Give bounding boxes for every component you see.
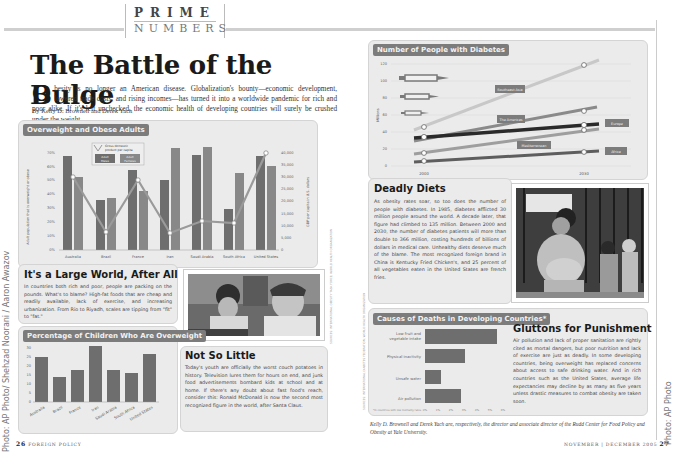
svg-text:France: France: [132, 255, 145, 259]
left-page-number: 26: [16, 440, 26, 447]
svg-text:France: France: [68, 404, 82, 415]
svg-text:20,000: 20,000: [281, 199, 294, 203]
diabetes-y-axis: 0204060 80100120: [380, 62, 388, 168]
svg-text:40,000: 40,000: [281, 151, 294, 155]
svg-text:100: 100: [380, 79, 388, 83]
svg-text:6%: 6%: [501, 408, 506, 412]
svg-text:25: 25: [26, 355, 31, 359]
large-world-body: In countries both rich and poor, people …: [24, 283, 172, 321]
y-axis-right: 05,00010,00015,000 20,00025,00030,00035,…: [281, 151, 294, 252]
svg-text:10: 10: [26, 382, 31, 386]
left-photo-credit: Photo: AP Photo/ Shehzad Noorani / Aaron…: [2, 251, 11, 452]
svg-text:Unsafe water: Unsafe water: [396, 376, 422, 381]
line-europe: [414, 124, 599, 138]
svg-text:The Americas: The Americas: [498, 118, 522, 122]
causes-chart: Low fruit andvegetable intake Physical i…: [369, 325, 529, 415]
deadly-diets-heading: Deadly Diets: [374, 183, 446, 194]
svg-text:Brazil: Brazil: [101, 255, 111, 259]
svg-text:Australia: Australia: [65, 255, 81, 259]
svg-text:3%: 3%: [462, 408, 467, 412]
svg-text:5,000: 5,000: [281, 236, 292, 240]
sources-note-left: SOURCES: INTERNATIONAL OBESITY TASK FORC…: [329, 229, 333, 344]
svg-text:vegetable intake: vegetable intake: [389, 336, 421, 341]
svg-text:Europe: Europe: [611, 122, 623, 126]
author-bio: Kelly D. Brownell and Derek Yach are, re…: [370, 420, 648, 436]
department-head: PRIME NUMBERS: [125, 4, 225, 38]
diabetes-x-axis: 20002030: [419, 171, 589, 176]
page-edge-line: [656, 20, 657, 440]
svg-text:50%: 50%: [47, 178, 56, 182]
svg-text:Africa: Africa: [611, 150, 621, 154]
causes-x-axis: 0%1%2%3% 4%5%6%: [423, 408, 506, 412]
svg-text:Australia: Australia: [28, 405, 45, 418]
svg-text:5%: 5%: [488, 408, 493, 412]
svg-text:Males: Males: [101, 159, 110, 163]
svg-text:40%: 40%: [47, 192, 56, 196]
svg-text:2000: 2000: [419, 171, 429, 176]
diabetes-panel: Number of People with Diabetes 0204060 8…: [368, 40, 648, 180]
y-axis-left-label: Adult population that is overweight or o…: [26, 169, 30, 245]
overweight-panel: Overweight and Obese Adults 0%10%20%30% …: [18, 120, 318, 268]
gluttons-body: Air pollution and lack of proper sanitat…: [513, 337, 641, 405]
publication-name: FOREIGN POLICY: [28, 442, 81, 447]
sources-note-right: SOURCES: INTERNATIONAL DIABETES FEDERATI…: [362, 293, 366, 410]
byline: By Kelly D. Brownell and Derek Yach: [32, 107, 132, 114]
svg-text:5: 5: [29, 391, 31, 395]
svg-text:0: 0: [281, 248, 284, 252]
gluttons-heading: Gluttons for Punishment: [513, 323, 652, 334]
children-y-axis: 051015 202530: [26, 346, 31, 404]
svg-text:Saudi Arabia: Saudi Arabia: [191, 255, 214, 259]
svg-text:2%: 2%: [449, 408, 454, 412]
svg-text:0: 0: [385, 164, 388, 168]
beach-bench-photo: [512, 184, 648, 302]
svg-text:Brazil: Brazil: [52, 405, 64, 415]
causes-category-labels: Low fruit andvegetable intake Physical i…: [387, 331, 422, 401]
right-page: Number of People with Diabetes 0204060 8…: [340, 0, 680, 458]
series-labels: Southeast Asia The Americas Europe Medit…: [495, 85, 629, 155]
deadly-diets-body: As obesity rates soar, so too does the n…: [374, 198, 506, 282]
svg-text:30,000: 30,000: [281, 175, 294, 179]
header-rule-right-page: [340, 28, 655, 31]
right-photo-credit: Photo: AP Photo: [664, 381, 673, 445]
deadly-diets-panel: Deadly Diets As obesity rates soar, so t…: [368, 178, 512, 304]
large-world-panel: It's a Large World, After All In countri…: [18, 264, 178, 324]
svg-text:25,000: 25,000: [281, 187, 294, 191]
svg-text:4%: 4%: [475, 408, 480, 412]
svg-text:Females: Females: [124, 159, 136, 163]
svg-text:120: 120: [380, 62, 388, 66]
svg-text:2030: 2030: [579, 171, 589, 176]
department-bottom: NUMBERS: [134, 21, 216, 35]
svg-text:South Africa: South Africa: [223, 255, 245, 259]
svg-text:15: 15: [26, 373, 31, 377]
svg-text:10,000: 10,000: [281, 224, 294, 228]
children-chart: 051015 202530 Australia Brazil France Ir…: [19, 342, 179, 434]
diabetes-y-label: Millions: [376, 108, 380, 122]
overweight-chart: 0%10%20%30% 40%50%60%70% Adult populatio…: [19, 137, 319, 265]
not-so-little-panel: Not So Little Today's youth are official…: [180, 346, 328, 432]
svg-text:60%: 60%: [47, 165, 56, 169]
dek-text: besity is no longer an American disease.…: [32, 85, 337, 124]
svg-text:20: 20: [382, 147, 387, 151]
overweight-panel-title: Overweight and Obese Adults: [23, 124, 149, 136]
x-axis-labels: AustraliaBrazilFranceIran Saudi ArabiaSo…: [65, 255, 278, 259]
svg-text:0%: 0%: [49, 248, 55, 252]
diabetes-chart: 0204060 80100120 Millions: [369, 55, 649, 179]
svg-text:70%: 70%: [47, 151, 56, 155]
svg-text:0%: 0%: [423, 408, 428, 412]
svg-text:80: 80: [382, 96, 387, 100]
svg-text:Iran: Iran: [91, 404, 100, 412]
svg-text:15,000: 15,000: [281, 212, 294, 216]
svg-text:20%: 20%: [47, 220, 56, 224]
header-rule-left: [4, 28, 124, 31]
chart-legend: Gross domestic product per capita Adult …: [92, 143, 144, 165]
causes-bars: [425, 329, 497, 403]
left-folio: 26 FOREIGN POLICY: [16, 440, 82, 447]
right-folio: NOVEMBER | DECEMBER 2005 27: [564, 440, 670, 447]
svg-text:35,000: 35,000: [281, 163, 294, 167]
children-panel: Percentage of Children Who Are Overweigh…: [18, 326, 178, 434]
department-top: PRIME: [126, 4, 224, 20]
svg-text:40: 40: [382, 130, 387, 134]
large-world-heading: It's a Large World, After All: [24, 269, 178, 280]
svg-text:20: 20: [26, 364, 31, 368]
children-bars: [35, 346, 156, 402]
